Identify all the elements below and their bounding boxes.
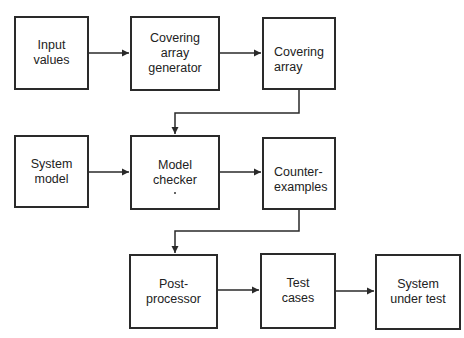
- node-label: System under test: [390, 277, 446, 307]
- node-post-processor: Post- processor: [129, 254, 218, 329]
- node-system-under-test: System under test: [375, 254, 461, 330]
- node-covering-array-generator: Covering array generator: [130, 16, 220, 91]
- node-test-cases: Test cases: [260, 253, 336, 329]
- node-system-model: System model: [14, 135, 89, 208]
- node-label: Counter- examples: [274, 165, 328, 195]
- node-model-checker: Model checker: [130, 135, 220, 210]
- node-label: Covering array: [274, 45, 324, 75]
- edge-counterexamples-to-postprocessor: [175, 209, 299, 253]
- node-input-values: Input values: [14, 16, 89, 90]
- node-label: Test cases: [282, 276, 315, 306]
- node-label: Post- processor: [146, 277, 201, 307]
- node-label: Model checker: [153, 158, 197, 188]
- node-counter-examples: Counter- examples: [262, 137, 336, 210]
- node-covering-array: Covering array: [262, 17, 336, 90]
- node-label: System model: [31, 157, 73, 187]
- stray-dot: [174, 192, 176, 194]
- node-label: Covering array generator: [148, 31, 202, 76]
- edge-array-to-checker: [175, 89, 299, 134]
- node-label: Input values: [33, 38, 69, 68]
